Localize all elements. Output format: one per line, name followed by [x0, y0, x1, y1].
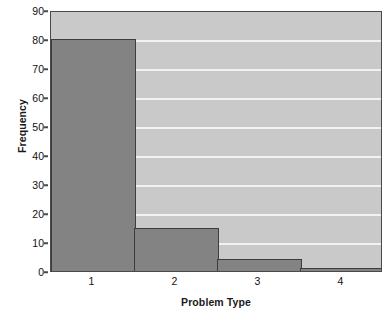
y-tick-mark — [44, 39, 48, 41]
y-tick-label: 40 — [4, 151, 44, 162]
y-tick-mark — [44, 213, 48, 215]
y-tick-label: 90 — [4, 6, 44, 17]
y-tick-label: 10 — [4, 238, 44, 249]
bar — [134, 228, 219, 272]
y-tick-label: 80 — [4, 35, 44, 46]
x-tick-label: 2 — [155, 276, 195, 287]
y-tick-mark — [44, 126, 48, 128]
x-axis-title: Problem Type — [50, 296, 382, 308]
bar — [217, 259, 302, 271]
x-tick-label: 3 — [238, 276, 278, 287]
y-axis-ticks: 0102030405060708090 — [0, 11, 44, 272]
y-tick-mark — [44, 10, 48, 12]
chart-figure: Frequency 0102030405060708090 1234 Probl… — [0, 0, 392, 325]
bar — [51, 39, 136, 271]
y-tick-label: 60 — [4, 93, 44, 104]
y-tick-mark — [44, 155, 48, 157]
y-tick-mark — [44, 97, 48, 99]
y-tick-mark — [44, 271, 48, 273]
y-tick-label: 30 — [4, 180, 44, 191]
y-tick-label: 20 — [4, 209, 44, 220]
y-tick-mark — [44, 184, 48, 186]
y-tick-mark — [44, 68, 48, 70]
plot-inner — [51, 12, 381, 271]
y-tick-label: 70 — [4, 64, 44, 75]
x-axis-ticks: 1234 — [50, 276, 382, 294]
plot-area — [50, 11, 382, 272]
x-tick-label: 1 — [72, 276, 112, 287]
y-tick-mark — [44, 242, 48, 244]
y-tick-label: 50 — [4, 122, 44, 133]
y-tick-label: 0 — [4, 267, 44, 278]
bar — [300, 268, 382, 271]
x-tick-label: 4 — [321, 276, 361, 287]
